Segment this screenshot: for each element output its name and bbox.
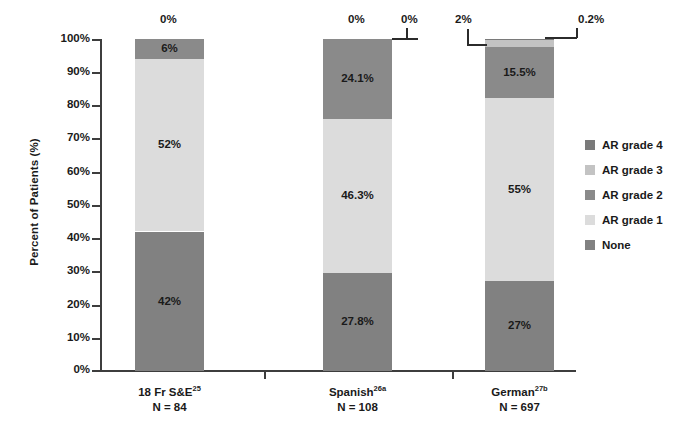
bar-segment-grade3[interactable] xyxy=(485,40,554,47)
y-axis-line xyxy=(100,39,102,372)
x-category-name: Spanish xyxy=(329,386,374,398)
x-category-n: N = 697 xyxy=(450,400,589,415)
bar-segment-grade2[interactable]: 24.1% xyxy=(323,39,392,119)
legend-item-label: AR grade 1 xyxy=(602,214,663,226)
bar-segment-grade2-label: 15.5% xyxy=(503,67,536,79)
x-category-superscript: 26a xyxy=(374,384,387,393)
y-tick-label-50: 50% xyxy=(30,198,90,210)
bar-segment-grade1[interactable]: 46.3% xyxy=(323,119,392,273)
bar-segment-none-label: 27.8% xyxy=(341,316,374,328)
bar2-grade4-outside-label: 0% xyxy=(348,13,365,25)
bar3-grade4-leader-vertical xyxy=(576,28,578,38)
y-tick-90 xyxy=(92,72,100,74)
bar-segment-grade2[interactable]: 6% xyxy=(135,39,204,59)
y-tick-50 xyxy=(92,205,100,207)
x-category-label-german: German27b N = 697 xyxy=(450,385,589,415)
bar-segment-grade2-label: 6% xyxy=(161,43,178,55)
bar-segment-grade1-label: 46.3% xyxy=(341,190,374,202)
x-category-n: N = 108 xyxy=(288,400,427,415)
x-category-name: 18 Fr S&E xyxy=(138,386,192,398)
y-tick-label-20: 20% xyxy=(30,298,90,310)
bar-segment-grade1[interactable]: 52% xyxy=(135,59,204,232)
bar1-grade4-outside-label: 0% xyxy=(160,13,177,25)
y-tick-70 xyxy=(92,138,100,140)
y-tick-20 xyxy=(92,305,100,307)
x-category-superscript: 25 xyxy=(192,384,200,393)
legend-item-label: AR grade 3 xyxy=(602,164,663,176)
x-category-label-spanish: Spanish26a N = 108 xyxy=(288,385,427,415)
legend-swatch-icon xyxy=(585,240,595,250)
bar2-grade3-leader-vertical xyxy=(406,28,408,39)
legend-swatch-icon xyxy=(585,190,595,200)
bar3-grade3-leader-horizontal xyxy=(467,44,487,46)
legend-item-ar-grade-3[interactable]: AR grade 3 xyxy=(585,157,663,182)
legend-item-label: AR grade 4 xyxy=(602,139,663,151)
bar3-grade3-outside-label: 2% xyxy=(455,13,472,25)
bar-segment-none[interactable]: 42% xyxy=(135,232,204,372)
y-tick-label-80: 80% xyxy=(30,98,90,110)
bar-segment-none-label: 27% xyxy=(508,320,531,332)
bar2-grade3-outside-label: 0% xyxy=(401,13,418,25)
y-tick-30 xyxy=(92,271,100,273)
bar-segment-grade2[interactable]: 15.5% xyxy=(485,47,554,99)
legend-item-label: AR grade 2 xyxy=(602,189,663,201)
x-category-label-18-fr-se: 18 Fr S&E25 N = 84 xyxy=(100,385,239,415)
y-tick-0 xyxy=(92,370,100,372)
y-tick-40 xyxy=(92,238,100,240)
bar-group-18-fr-se[interactable]: 6% 52% 42% xyxy=(135,39,204,371)
bar-segment-grade1-label: 52% xyxy=(158,139,181,151)
bar-segment-grade1-label: 55% xyxy=(508,184,531,196)
legend-item-none[interactable]: None xyxy=(585,232,663,257)
legend-item-ar-grade-1[interactable]: AR grade 1 xyxy=(585,207,663,232)
legend-swatch-icon xyxy=(585,215,595,225)
y-tick-label-30: 30% xyxy=(30,264,90,276)
legend-item-ar-grade-2[interactable]: AR grade 2 xyxy=(585,182,663,207)
legend-item-ar-grade-4[interactable]: AR grade 4 xyxy=(585,132,663,157)
x-category-superscript: 27b xyxy=(535,384,548,393)
stacked-bar-chart: Percent of Patients (%) 100% 90% 80% 70%… xyxy=(0,0,697,430)
bar-segment-none[interactable]: 27% xyxy=(485,281,554,371)
y-tick-100 xyxy=(92,39,100,41)
bar3-grade4-outside-label: 0.2% xyxy=(578,13,604,25)
legend-item-label: None xyxy=(602,239,631,251)
x-category-name: German xyxy=(491,386,534,398)
y-tick-80 xyxy=(92,105,100,107)
x-tick-divider-1 xyxy=(264,371,266,379)
bar-segment-none[interactable]: 27.8% xyxy=(323,273,392,371)
bar-group-german[interactable]: 15.5% 55% 27% xyxy=(485,39,554,371)
y-tick-label-70: 70% xyxy=(30,131,90,143)
y-tick-10 xyxy=(92,338,100,340)
y-tick-label-10: 10% xyxy=(30,331,90,343)
x-category-n: N = 84 xyxy=(100,400,239,415)
bar2-grade3-leader-horizontal xyxy=(392,38,418,40)
bar-segment-none-label: 42% xyxy=(158,296,181,308)
bar-segment-grade1[interactable]: 55% xyxy=(485,98,554,281)
bar3-grade3-leader-vertical xyxy=(467,29,469,45)
legend-swatch-icon xyxy=(585,140,595,150)
y-tick-label-40: 40% xyxy=(30,231,90,243)
bar-segment-grade2-label: 24.1% xyxy=(341,73,374,85)
x-tick-divider-2 xyxy=(452,371,454,379)
chart-legend: AR grade 4 AR grade 3 AR grade 2 AR grad… xyxy=(585,132,663,257)
bar3-grade4-leader-horizontal xyxy=(545,37,577,39)
y-tick-60 xyxy=(92,172,100,174)
bar-group-spanish[interactable]: 24.1% 46.3% 27.8% xyxy=(323,39,392,371)
y-tick-label-60: 60% xyxy=(30,165,90,177)
legend-swatch-icon xyxy=(585,165,595,175)
y-tick-label-0: 0% xyxy=(30,363,90,375)
y-tick-label-90: 90% xyxy=(30,65,90,77)
y-tick-label-100: 100% xyxy=(30,32,90,44)
